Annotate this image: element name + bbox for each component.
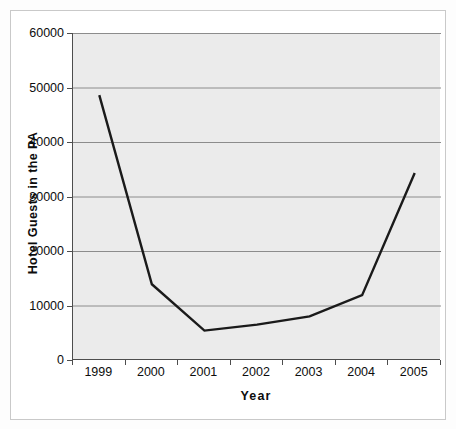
gridlines: [73, 34, 441, 307]
y-tick-label: 10000: [6, 300, 64, 313]
x-tick-mark: [230, 360, 231, 365]
y-tick-label: 0: [6, 354, 64, 367]
x-tick-mark: [282, 360, 283, 365]
chart-figure: Hotel Guests in the PA 01000020000300004…: [0, 0, 456, 429]
x-tick-label: 2005: [387, 366, 440, 379]
x-tick-mark: [125, 360, 126, 365]
plot-area: [72, 33, 440, 360]
x-tick-label: 1999: [72, 366, 125, 379]
x-axis-title: Year: [72, 389, 440, 403]
x-tick-label: 2003: [282, 366, 335, 379]
x-tick-label: 2002: [230, 366, 283, 379]
data-line-1: [99, 95, 414, 330]
x-tick-mark: [387, 360, 388, 365]
x-tick-label: 2004: [335, 366, 388, 379]
data-series-group: [99, 95, 414, 330]
x-tick-mark: [72, 360, 73, 365]
y-tick-label: 40000: [6, 136, 64, 149]
y-tick-label: 60000: [6, 27, 64, 40]
x-tick-label: 2000: [125, 366, 178, 379]
x-tick-mark: [335, 360, 336, 365]
x-tick-mark: [440, 360, 441, 365]
x-tick-mark: [177, 360, 178, 365]
x-tick-label: 2001: [177, 366, 230, 379]
y-tick-label: 20000: [6, 245, 64, 258]
y-tick-label: 50000: [6, 82, 64, 95]
y-tick-label: 30000: [6, 191, 64, 204]
plot-svg: [73, 33, 441, 360]
